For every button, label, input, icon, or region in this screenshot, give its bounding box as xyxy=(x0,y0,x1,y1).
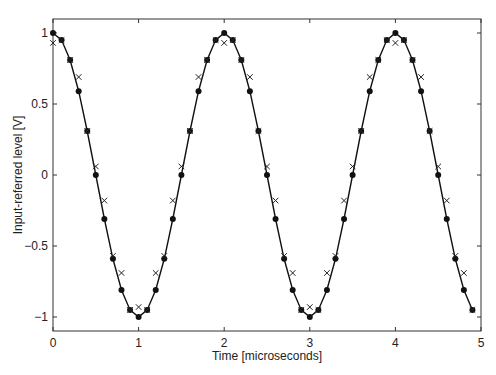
dot-marker xyxy=(178,172,184,178)
y-tick-label: −1 xyxy=(34,310,48,324)
dot-marker xyxy=(196,88,202,94)
dot-marker xyxy=(332,256,338,262)
dot-marker xyxy=(444,216,450,222)
dot-marker xyxy=(153,287,159,293)
dot-marker xyxy=(341,216,347,222)
x-tick-label: 4 xyxy=(392,336,399,350)
dot-marker xyxy=(264,172,270,178)
dot-marker xyxy=(110,256,116,262)
y-axis-label: Input-referred level [V] xyxy=(11,116,25,235)
dot-marker xyxy=(93,172,99,178)
x-tick-label: 1 xyxy=(135,336,142,350)
dot-marker xyxy=(350,172,356,178)
x-tick-label: 5 xyxy=(478,336,485,350)
dot-marker xyxy=(367,88,373,94)
x-tick-label: 0 xyxy=(50,336,57,350)
chart: 012345 −1−0.500.51 Time [microseconds] I… xyxy=(0,0,496,375)
y-tick-label: 0 xyxy=(41,168,48,182)
dot-marker xyxy=(273,216,279,222)
dot-marker xyxy=(392,30,398,36)
dot-marker xyxy=(307,314,313,320)
dot-marker xyxy=(281,256,287,262)
y-tick-label: 0.5 xyxy=(31,97,48,111)
dot-marker xyxy=(50,30,56,36)
dot-marker xyxy=(452,256,458,262)
dot-marker xyxy=(324,287,330,293)
dot-marker xyxy=(170,216,176,222)
dot-marker xyxy=(101,216,107,222)
dot-marker xyxy=(418,88,424,94)
dot-marker xyxy=(290,287,296,293)
dot-marker xyxy=(435,172,441,178)
dot-marker xyxy=(221,30,227,36)
dot-marker xyxy=(76,88,82,94)
x-tick-label: 2 xyxy=(221,336,228,350)
dot-marker xyxy=(136,314,142,320)
dot-marker xyxy=(118,287,124,293)
y-tick-label: 1 xyxy=(41,26,48,40)
dot-marker xyxy=(461,287,467,293)
dot-marker xyxy=(161,256,167,262)
x-tick-label: 3 xyxy=(306,336,313,350)
y-tick-label: −0.5 xyxy=(24,239,48,253)
dot-marker xyxy=(247,88,253,94)
x-axis-label: Time [microseconds] xyxy=(212,349,322,363)
